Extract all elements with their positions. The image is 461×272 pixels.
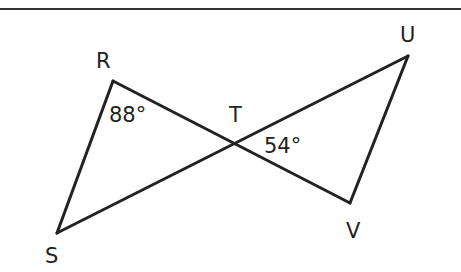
label-r: R xyxy=(96,49,111,73)
label-v: V xyxy=(346,219,361,243)
label-t: T xyxy=(228,103,242,127)
segment-rv xyxy=(113,81,350,203)
triangle-diagram: R S T U V 88° 54° xyxy=(0,0,461,272)
label-s: S xyxy=(45,244,58,268)
angle-r-label: 88° xyxy=(109,103,146,127)
segment-uv xyxy=(350,56,408,203)
segment-su xyxy=(57,56,408,233)
angle-t-label: 54° xyxy=(264,134,301,158)
label-u: U xyxy=(400,23,415,47)
